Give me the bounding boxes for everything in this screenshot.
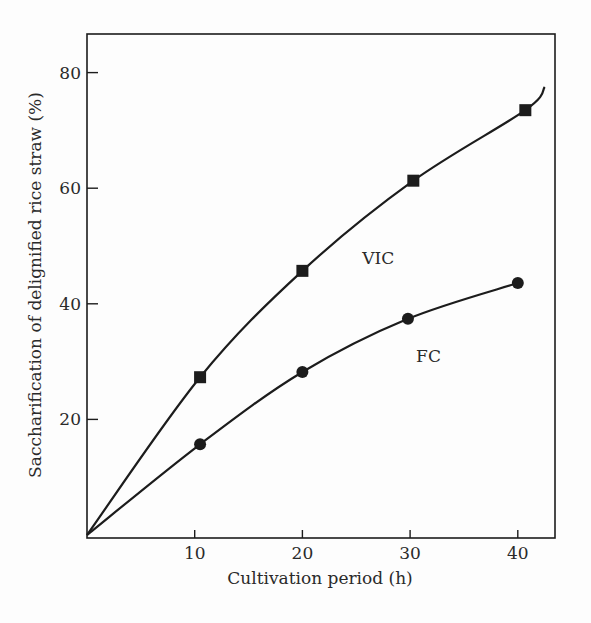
x-tick-label: 10 — [184, 543, 206, 563]
y-tick-label: 20 — [59, 409, 81, 429]
series-labels: VICFC — [361, 248, 441, 366]
circle-marker — [296, 366, 308, 378]
square-marker — [519, 104, 531, 116]
square-marker — [194, 371, 206, 383]
y-tick-label: 40 — [59, 294, 81, 314]
plot-frame — [87, 34, 555, 538]
y-tick-label: 60 — [59, 178, 81, 198]
x-tick-label: 20 — [292, 543, 314, 563]
series-label-fc: FC — [416, 346, 441, 366]
x-tick-label: 40 — [507, 543, 529, 563]
chart: 1020304020406080 VICFC Cultivation perio… — [0, 0, 591, 623]
circle-marker — [194, 438, 206, 450]
data-curves — [87, 87, 545, 535]
circle-marker — [402, 313, 414, 325]
y-axis-title: Saccharification of delignified rice str… — [25, 92, 45, 478]
square-marker — [296, 265, 308, 277]
series-label-vic: VIC — [361, 248, 394, 268]
square-marker — [407, 175, 419, 187]
x-axis-title: Cultivation period (h) — [227, 568, 413, 588]
x-tick-label: 30 — [399, 543, 421, 563]
curve-fc — [87, 283, 518, 535]
axis-ticks: 1020304020406080 — [59, 63, 528, 563]
data-markers — [194, 104, 531, 450]
circle-marker — [512, 277, 524, 289]
curve-vic — [87, 87, 545, 535]
y-tick-label: 80 — [59, 63, 81, 83]
